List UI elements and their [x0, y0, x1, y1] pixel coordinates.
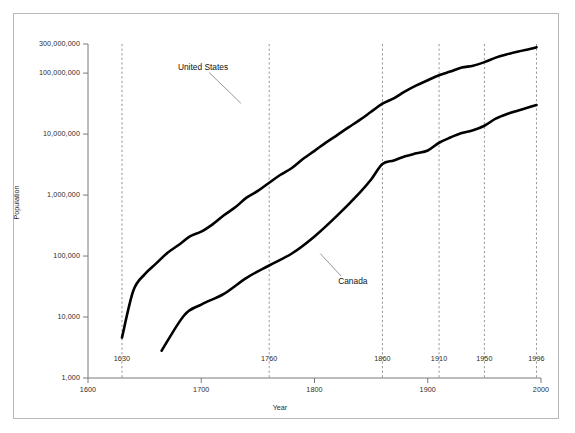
y-tick-label-100,000: 100,000: [0, 251, 80, 260]
x-tick-label-1900: 1900: [403, 385, 453, 394]
y-tick-label-10,000,000: 10,000,000: [0, 129, 80, 138]
annotation-leader-lines-group: [209, 72, 341, 276]
data-series-group: [122, 47, 536, 350]
y-axis-title: Population: [12, 173, 21, 233]
x-axis-title: Year: [273, 403, 288, 412]
chart-plot-area: [0, 0, 575, 433]
reference-line-label-1860: 1860: [357, 354, 407, 363]
x-tick-label-1600: 1600: [63, 385, 113, 394]
reference-line-label-1950: 1950: [459, 354, 509, 363]
y-tick-label-10,000: 10,000: [0, 312, 80, 321]
reference-line-label-1910: 1910: [414, 354, 464, 363]
x-tick-label-1800: 1800: [290, 385, 340, 394]
reference-line-label-1996: 1996: [511, 354, 561, 363]
axes-group: [88, 44, 541, 378]
reference-line-label-1760: 1760: [244, 354, 294, 363]
reference-lines-group: [122, 44, 536, 378]
data-line-canada: [162, 105, 537, 351]
x-tick-label-1700: 1700: [176, 385, 226, 394]
x-tick-label-2000: 2000: [516, 385, 566, 394]
series-label-united-states: United States: [178, 62, 228, 72]
y-tick-label-100,000,000: 100,000,000: [0, 68, 80, 77]
y-tick-label-1,000: 1,000: [0, 373, 80, 382]
reference-line-label-1630: 1630: [97, 354, 147, 363]
axis-ticks-group: [83, 44, 541, 383]
data-line-united-states: [122, 47, 536, 337]
leader-line-united-states: [209, 72, 241, 103]
figure-container: 300,000,000100,000,00010,000,0001,000,00…: [0, 0, 575, 433]
y-tick-label-300,000,000: 300,000,000: [0, 39, 80, 48]
series-label-canada: Canada: [338, 276, 367, 286]
leader-line-canada: [320, 254, 341, 276]
